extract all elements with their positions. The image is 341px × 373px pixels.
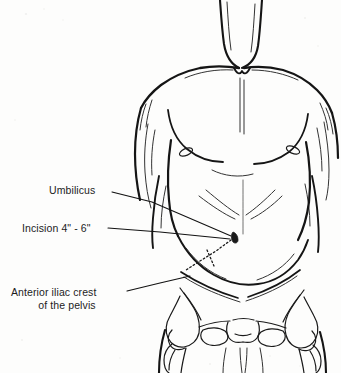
label-incision: Incision 4" - 6" (22, 222, 91, 235)
anatomical-figure: Umbilicus Incision 4" - 6" Anterior ilia… (0, 0, 341, 373)
label-anterior-iliac-crest-line-2: of the pelvis (11, 299, 123, 312)
label-anterior-iliac-crest: Anterior iliac crest of the pelvis (11, 286, 123, 311)
label-anterior-iliac-crest-line-1: Anterior iliac crest (11, 286, 123, 299)
label-umbilicus: Umbilicus (49, 184, 95, 197)
